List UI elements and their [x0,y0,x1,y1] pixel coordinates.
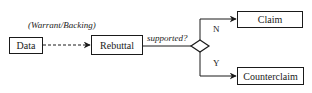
node-counterclaim: Counterclaim [237,67,304,85]
node-data-label: Data [17,40,36,51]
node-counterclaim-label: Counterclaim [243,71,297,82]
node-claim: Claim [237,11,303,28]
warrant-backing-label: (Warrant/Backing) [28,20,96,30]
node-claim-label: Claim [258,14,282,25]
supported-question-label: supported? [147,33,188,43]
node-rebuttal: Rebuttal [91,35,143,55]
branch-yes-label: Y [213,58,220,68]
decision-diamond [191,40,209,52]
node-rebuttal-label: Rebuttal [100,40,134,51]
branch-no-label: N [213,24,220,34]
node-data: Data [9,37,43,54]
